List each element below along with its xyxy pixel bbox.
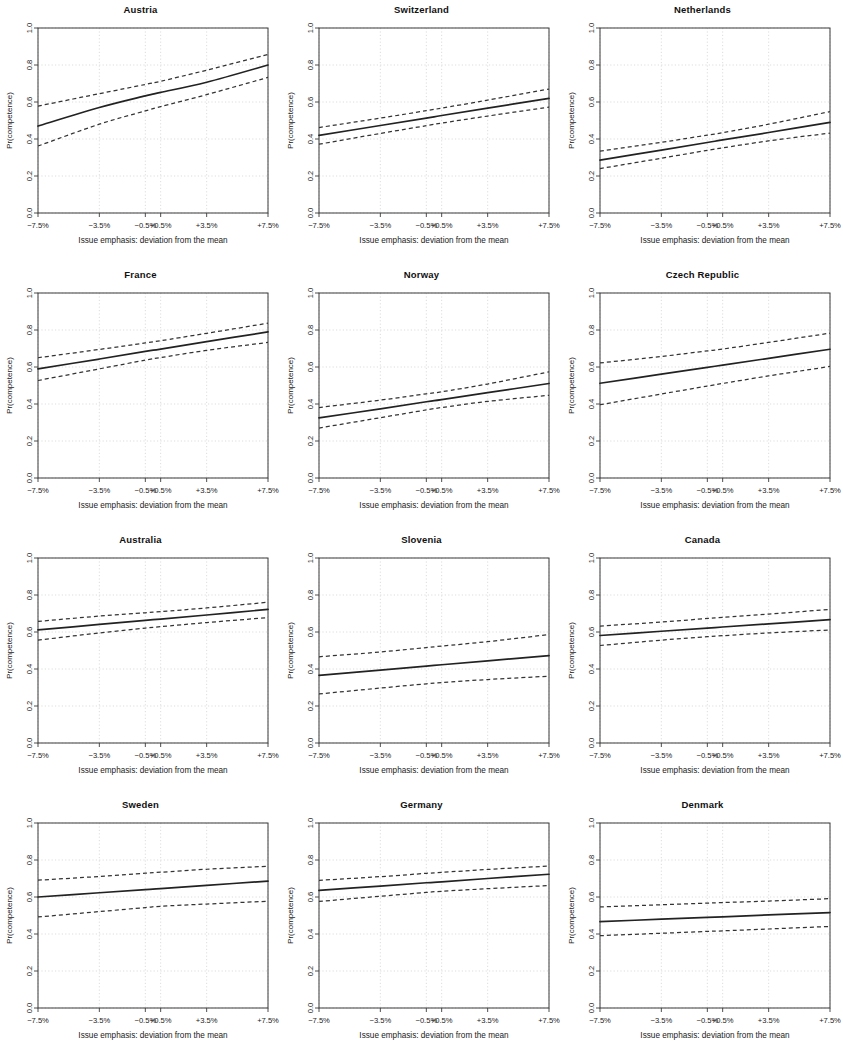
y-tick-label: 0.2 bbox=[306, 701, 315, 712]
x-axis-title: Issue emphasis: deviation from the mean bbox=[359, 501, 509, 510]
y-tick-label: 0.8 bbox=[25, 590, 34, 601]
x-tick-label: +7.5% bbox=[538, 1016, 560, 1025]
x-axis-title: Issue emphasis: deviation from the mean bbox=[359, 236, 509, 245]
y-tick-label: 0.2 bbox=[306, 436, 315, 447]
y-axis-title: Pr(competence) bbox=[567, 622, 576, 679]
y-axis-title: Pr(competence) bbox=[5, 622, 14, 679]
chart-panel: Slovenia0.00.20.40.60.81.0−7.5%−3.5%−0.5… bbox=[281, 530, 562, 795]
x-tick-label: +7.5% bbox=[257, 486, 279, 495]
y-tick-label: 0.6 bbox=[587, 892, 596, 903]
y-tick-label: 0.0 bbox=[25, 208, 34, 219]
confidence-interval-lower bbox=[600, 133, 830, 169]
x-tick-label: −7.5% bbox=[308, 486, 330, 495]
confidence-interval-upper bbox=[600, 899, 830, 907]
chart-panel: Australia0.00.20.40.60.81.0−7.5%−3.5%−0.… bbox=[0, 530, 281, 795]
y-tick-label: 0.6 bbox=[306, 97, 315, 108]
y-tick-label: 1.0 bbox=[25, 553, 34, 564]
x-axis-title: Issue emphasis: deviation from the mean bbox=[640, 236, 790, 245]
y-tick-label: 0.6 bbox=[306, 892, 315, 903]
x-tick-label: −3.5% bbox=[650, 1016, 672, 1025]
x-tick-label: −3.5% bbox=[88, 1016, 110, 1025]
y-tick-label: 0.2 bbox=[25, 436, 34, 447]
y-axis-title: Pr(competence) bbox=[567, 92, 576, 149]
y-tick-label: 0.4 bbox=[587, 664, 596, 675]
chart-panel: France0.00.20.40.60.81.0−7.5%−3.5%−0.5%+… bbox=[0, 265, 281, 530]
y-tick-label: 0.0 bbox=[587, 473, 596, 484]
y-tick-label: 0.6 bbox=[587, 362, 596, 373]
confidence-interval-lower bbox=[38, 342, 268, 380]
x-tick-label: +0.5% bbox=[712, 751, 734, 760]
x-tick-label: +3.5% bbox=[477, 486, 499, 495]
y-axis-title: Pr(competence) bbox=[286, 357, 295, 414]
x-tick-label: +3.5% bbox=[758, 221, 780, 230]
plot-frame bbox=[319, 293, 549, 478]
confidence-interval-upper bbox=[38, 866, 268, 880]
x-tick-label: +3.5% bbox=[477, 1016, 499, 1025]
y-tick-label: 0.0 bbox=[587, 208, 596, 219]
plot-frame bbox=[319, 558, 549, 743]
x-tick-label: −3.5% bbox=[88, 221, 110, 230]
y-tick-label: 1.0 bbox=[25, 818, 34, 829]
chart-panel: Austria0.00.20.40.60.81.0−7.5%−3.5%−0.5%… bbox=[0, 0, 281, 265]
plot-frame bbox=[38, 28, 268, 213]
y-tick-label: 1.0 bbox=[306, 818, 315, 829]
y-tick-label: 0.6 bbox=[25, 362, 34, 373]
confidence-interval-upper bbox=[319, 866, 549, 880]
confidence-interval-lower bbox=[38, 618, 268, 641]
x-tick-label: −3.5% bbox=[650, 221, 672, 230]
panel-plot: 0.00.20.40.60.81.0−7.5%−3.5%−0.5%+0.5%+3… bbox=[0, 795, 281, 1059]
y-tick-label: 0.0 bbox=[306, 1003, 315, 1014]
x-tick-label: −7.5% bbox=[308, 1016, 330, 1025]
confidence-interval-lower bbox=[600, 366, 830, 404]
y-tick-label: 0.4 bbox=[25, 399, 34, 410]
x-tick-label: +0.5% bbox=[712, 221, 734, 230]
fitted-line bbox=[600, 913, 830, 922]
confidence-interval-lower bbox=[319, 107, 549, 144]
y-tick-label: 0.8 bbox=[25, 855, 34, 866]
x-tick-label: +3.5% bbox=[196, 221, 218, 230]
y-tick-label: 0.4 bbox=[587, 929, 596, 940]
fitted-line bbox=[600, 122, 830, 160]
plot-frame bbox=[38, 823, 268, 1008]
x-axis-title: Issue emphasis: deviation from the mean bbox=[359, 1031, 509, 1040]
y-tick-label: 0.8 bbox=[306, 855, 315, 866]
y-tick-label: 0.2 bbox=[25, 171, 34, 182]
x-tick-label: −3.5% bbox=[369, 1016, 391, 1025]
y-tick-label: 0.0 bbox=[587, 738, 596, 749]
y-axis-title: Pr(competence) bbox=[286, 92, 295, 149]
confidence-interval-upper bbox=[600, 609, 830, 626]
x-axis-title: Issue emphasis: deviation from the mean bbox=[640, 766, 790, 775]
y-tick-label: 0.2 bbox=[25, 966, 34, 977]
y-tick-label: 1.0 bbox=[306, 23, 315, 34]
y-tick-label: 0.6 bbox=[25, 892, 34, 903]
fitted-line bbox=[319, 656, 549, 676]
y-tick-label: 0.0 bbox=[306, 473, 315, 484]
y-tick-label: 0.2 bbox=[306, 171, 315, 182]
y-tick-label: 0.0 bbox=[306, 738, 315, 749]
y-tick-label: 0.2 bbox=[587, 436, 596, 447]
y-tick-label: 0.4 bbox=[25, 134, 34, 145]
panel-plot: 0.00.20.40.60.81.0−7.5%−3.5%−0.5%+0.5%+3… bbox=[0, 0, 281, 265]
x-tick-label: +0.5% bbox=[150, 486, 172, 495]
x-tick-label: +3.5% bbox=[196, 486, 218, 495]
x-tick-label: +7.5% bbox=[538, 221, 560, 230]
x-tick-label: +0.5% bbox=[431, 1016, 453, 1025]
x-tick-label: −7.5% bbox=[27, 751, 49, 760]
y-tick-label: 0.6 bbox=[587, 627, 596, 638]
x-axis-title: Issue emphasis: deviation from the mean bbox=[640, 501, 790, 510]
x-tick-label: −7.5% bbox=[27, 221, 49, 230]
y-tick-label: 0.4 bbox=[306, 399, 315, 410]
confidence-interval-upper bbox=[38, 54, 268, 106]
x-tick-label: +0.5% bbox=[431, 486, 453, 495]
x-tick-label: +0.5% bbox=[712, 486, 734, 495]
x-tick-label: −7.5% bbox=[589, 486, 611, 495]
x-tick-label: −7.5% bbox=[27, 1016, 49, 1025]
x-tick-label: +7.5% bbox=[538, 486, 560, 495]
x-tick-label: +3.5% bbox=[477, 751, 499, 760]
confidence-interval-upper bbox=[319, 635, 549, 657]
plot-frame bbox=[600, 823, 830, 1008]
y-tick-label: 0.4 bbox=[25, 929, 34, 940]
chart-panel: Germany0.00.20.40.60.81.0−7.5%−3.5%−0.5%… bbox=[281, 795, 562, 1059]
x-axis-title: Issue emphasis: deviation from the mean bbox=[359, 766, 509, 775]
y-tick-label: 0.8 bbox=[587, 325, 596, 336]
